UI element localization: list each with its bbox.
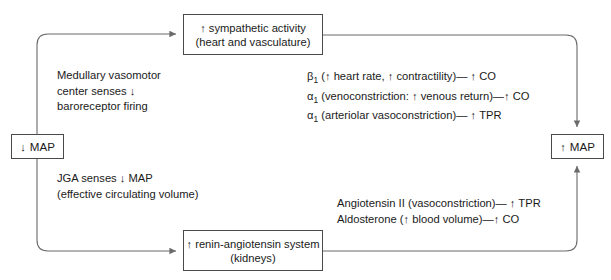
annotation-medullary-line1: Medullary vasomotor [57, 68, 161, 84]
node-sympathetic-line1: ↑ sympathetic activity [200, 21, 306, 35]
node-map-increased: ↑ MAP [551, 134, 604, 159]
annotation-jga-line1: JGA senses ↓ MAP [57, 171, 199, 187]
node-map-decreased: ↓ MAP [11, 134, 64, 159]
node-renin-angiotensin-system: ↑ renin-angiotensin system (kidneys) [183, 230, 323, 271]
annotation-sns-line1-text: (↑ heart rate, ↑ contractility)— ↑ CO [318, 70, 496, 82]
node-sympathetic-line2: (heart and vasculature) [195, 35, 310, 49]
flowchart-canvas: ↑ sympathetic activity (heart and vascul… [0, 0, 611, 280]
annotation-medullary-line2: center senses ↓ [57, 84, 161, 100]
node-renin-line2: (kidneys) [230, 251, 275, 265]
node-renin-line1: ↑ renin-angiotensin system [186, 237, 319, 251]
node-map-high-label: MAP [570, 140, 595, 154]
node-sympathetic-activity: ↑ sympathetic activity (heart and vascul… [183, 14, 323, 55]
annotation-jga-line2: (effective circulating volume) [57, 187, 199, 203]
down-arrow-icon: ↓ [20, 140, 26, 154]
annotation-sns-line2: α1 (venoconstriction: ↑ venous return)—↑… [307, 89, 530, 109]
annotation-sympathetic-effects: β1 (↑ heart rate, ↑ contractility)— ↑ CO… [307, 69, 530, 128]
annotation-jga-senses: JGA senses ↓ MAP (effective circulating … [57, 171, 199, 202]
annotation-sns-line3: α1 (arteriolar vasoconstriction)— ↑ TPR [307, 108, 530, 128]
up-arrow-icon: ↑ [560, 140, 566, 154]
annotation-raas-line2: Aldosterone (↑ blood volume)—↑ CO [337, 212, 541, 228]
node-map-low-label: MAP [30, 140, 55, 154]
annotation-raas-effects: Angiotensin II (vasoconstriction)— ↑ TPR… [337, 196, 541, 227]
annotation-raas-line1: Angiotensin II (vasoconstriction)— ↑ TPR [337, 196, 541, 212]
annotation-medullary-line3: baroreceptor firing [57, 99, 161, 115]
annotation-sns-line3-text: (arteriolar vasoconstriction)— ↑ TPR [318, 109, 501, 121]
annotation-medullary-vasomotor: Medullary vasomotor center senses ↓ baro… [57, 68, 161, 115]
annotation-sns-line2-text: (venoconstriction: ↑ venous return)—↑ CO [318, 90, 529, 102]
annotation-sns-line1: β1 (↑ heart rate, ↑ contractility)— ↑ CO [307, 69, 530, 89]
